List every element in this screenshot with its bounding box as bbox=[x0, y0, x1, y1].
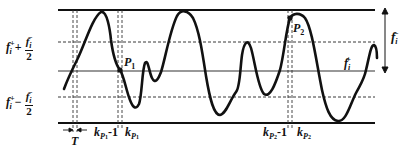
signal-curve bbox=[64, 11, 377, 121]
k-p1-minus-one-label: kP1-1 bbox=[94, 126, 118, 141]
k-p2-minus-one-label: kP2-1 bbox=[263, 126, 287, 141]
upper-threshold-label: f+i + fi− 2 bbox=[6, 34, 33, 62]
k-p1-label: kP1 bbox=[125, 126, 139, 141]
point-p1-label: P1 bbox=[124, 56, 135, 71]
diagram-canvas bbox=[0, 0, 413, 155]
range-arrow bbox=[382, 8, 388, 73]
period-arrows bbox=[63, 128, 87, 132]
point-p1-marker bbox=[117, 67, 122, 72]
range-label: fi− bbox=[391, 30, 398, 46]
baseline-label: fi+ bbox=[344, 56, 351, 72]
point-p2-marker bbox=[287, 15, 292, 20]
period-label: T bbox=[71, 135, 78, 147]
k-p2-label: kP2 bbox=[297, 126, 311, 141]
lower-threshold-label: f+i − fi− 2 bbox=[6, 89, 33, 117]
point-p2-label: P2 bbox=[293, 22, 304, 37]
